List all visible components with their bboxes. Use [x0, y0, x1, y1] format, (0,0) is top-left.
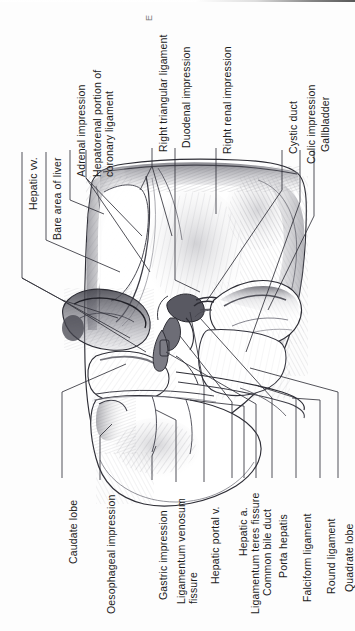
label-hepatic-a: Hepatic a. — [238, 507, 250, 556]
label-quadrate-lobe: Quadrate lobe — [344, 524, 355, 593]
label-falciform-ligament: Falciform ligament — [302, 514, 314, 602]
label-ligamentum-teres-fissure: Ligamentum teres fissure — [250, 493, 262, 614]
label-ligamentum-venosum-fissure: Ligamentum venosum fissure — [176, 496, 199, 604]
label-adrenal-impression: Adrenal impression — [76, 84, 88, 177]
label-hepatic-portal-v: Hepatic portal v. — [210, 506, 222, 584]
label-gastric-impression: Gastric impression — [158, 510, 170, 600]
label-oesophageal-impression: Oesophageal impression — [106, 495, 118, 614]
label-gallbladder: Gallbladder — [320, 97, 332, 152]
label-duodenal-impression: Duodenal impression — [181, 47, 193, 149]
label-caudate-lobe: Caudate lobe — [68, 500, 80, 564]
label-common-bile-duct: Common bile duct — [262, 509, 274, 596]
label-bare-area-of-liver: Bare area of liver — [52, 157, 64, 240]
label-colic-impression: Colic impression — [306, 85, 318, 164]
label-right-renal-impression: Right renal impression — [222, 46, 234, 154]
label-hepatorenal-coronary-ligament: Hepatorenal portion of coronary ligament — [92, 45, 115, 177]
label-hepatic-vv: Hepatic vv. — [28, 157, 40, 210]
figure-plate: E — [0, 0, 355, 631]
label-right-triangular-ligament: Right triangular ligament — [158, 34, 170, 152]
label-cystic-duct: Cystic duct — [288, 101, 300, 154]
label-porta-hepatis: Porta hepatis — [278, 514, 290, 578]
label-round-ligament: Round ligament — [326, 518, 338, 594]
